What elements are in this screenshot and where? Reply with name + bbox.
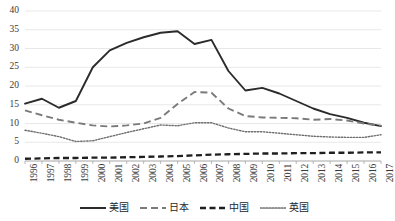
- legend-item-label: 美国: [109, 203, 129, 213]
- x-axis-tick-label: 1999: [80, 164, 90, 182]
- x-axis-tick-label: 2017: [385, 164, 395, 182]
- x-axis-tick-label: 2008: [232, 164, 242, 182]
- legend-item-label: 英国: [289, 203, 309, 213]
- solid-line-swatch: [80, 203, 106, 213]
- y-axis-tick-label: 5: [0, 137, 19, 147]
- y-axis-tick-label: 10: [0, 119, 19, 129]
- x-axis-tick-label: 2014: [334, 164, 344, 182]
- plot-area: [25, 11, 381, 161]
- y-axis-tick-label: 15: [0, 100, 19, 110]
- series-lines: [25, 11, 381, 161]
- x-axis-tick-label: 2003: [148, 164, 158, 182]
- x-axis-tick-label: 2015: [351, 164, 361, 182]
- x-axis-tick-label: 2011: [283, 164, 293, 182]
- x-axis-tick-label: 2006: [199, 164, 209, 182]
- x-axis-tick-label: 1997: [46, 164, 56, 182]
- series-line: [25, 123, 381, 142]
- legend-item-label: 中国: [229, 203, 249, 213]
- x-axis-tick-label: 2004: [165, 164, 175, 182]
- x-axis: 1996199719981999200020012002200320042005…: [25, 163, 381, 201]
- y-axis-tick-label: 20: [0, 81, 19, 91]
- x-axis-tick-label: 2013: [317, 164, 327, 182]
- x-axis-tick-label: 1998: [63, 164, 73, 182]
- x-axis-tick-label: 2000: [97, 164, 107, 182]
- chart-legend: 美国日本中国英国: [0, 198, 388, 218]
- y-axis: 4035302520151050: [0, 0, 22, 172]
- y-axis-tick-label: 35: [0, 25, 19, 35]
- legend-item-label: 日本: [169, 203, 189, 213]
- bold-dashed-line-swatch: [200, 203, 226, 213]
- x-axis-tick-label: 2007: [215, 164, 225, 182]
- x-axis-tick-label: 2009: [249, 164, 259, 182]
- x-axis-tick-label: 2002: [131, 164, 141, 182]
- legend-item[interactable]: 美国: [80, 203, 129, 213]
- y-axis-tick-label: 0: [0, 156, 19, 166]
- y-axis-tick-label: 40: [0, 6, 19, 16]
- series-line: [25, 152, 381, 158]
- series-line: [25, 31, 381, 126]
- x-axis-tick-label: 2010: [266, 164, 276, 182]
- y-axis-tick-label: 25: [0, 62, 19, 72]
- legend-item[interactable]: 中国: [200, 203, 249, 213]
- legend-item[interactable]: 英国: [260, 203, 309, 213]
- x-axis-tick-label: 2016: [368, 164, 378, 182]
- x-axis-tick-label: 2001: [114, 164, 124, 182]
- x-axis-tick-label: 2012: [300, 164, 310, 182]
- x-axis-tick-label: 2005: [182, 164, 192, 182]
- x-axis-tick-label: 1996: [29, 164, 39, 182]
- dotted-line-swatch: [260, 203, 286, 213]
- dashed-line-swatch: [140, 203, 166, 213]
- y-axis-tick-label: 30: [0, 44, 19, 54]
- legend-item[interactable]: 日本: [140, 203, 189, 213]
